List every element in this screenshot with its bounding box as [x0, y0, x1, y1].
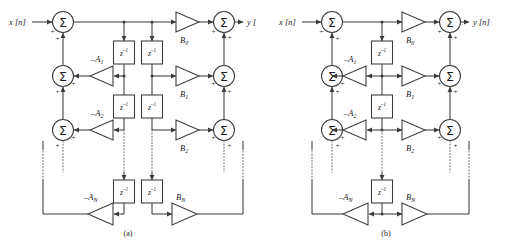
amp-a-AN-label: –AN [83, 192, 98, 203]
amp-b-AN-label: –AN [338, 192, 353, 203]
sum-node-a-right-3-symbol: Σ [220, 123, 228, 138]
sign-plus: + [320, 28, 324, 36]
amp-a-A1 [90, 66, 113, 86]
sign-plus: + [212, 28, 216, 36]
sign-plus: + [72, 134, 76, 142]
amp-b-B0-label: B0 [406, 35, 414, 46]
sign-plus: + [336, 35, 340, 43]
sign-plus: + [56, 142, 60, 150]
amp-b-AN [343, 203, 368, 225]
sum-node-a-right-1-symbol: Σ [220, 15, 228, 30]
amp-b-B0 [402, 12, 425, 32]
sign-plus: + [454, 142, 458, 150]
caption-a: (a) [124, 229, 133, 238]
sign-plus: + [212, 80, 216, 88]
sum-node-a-left-3-symbol: Σ [59, 123, 67, 138]
amp-a-A2 [90, 120, 113, 140]
amp-a-BN [172, 203, 197, 225]
amp-a-BN-label: BN [176, 192, 186, 203]
sign-plus: + [72, 80, 76, 88]
sum-node-b-right-1-symbol: Σ [446, 15, 454, 30]
sum-node-a-left-1-symbol: Σ [59, 15, 67, 30]
amp-a-A1-label: –A1 [90, 54, 103, 65]
sum-node-b-right-2-symbol: Σ [446, 69, 454, 84]
sign-plus: + [341, 134, 345, 142]
amp-a-A2-label: –A2 [90, 108, 103, 119]
sum-node-a-right-2-symbol: Σ [220, 69, 228, 84]
sum-node-a-left-2-symbol: Σ [59, 69, 67, 84]
amp-b-B1 [402, 66, 425, 86]
sign-plus: + [438, 80, 442, 88]
sum-node-b-right-3-symbol: Σ [446, 123, 454, 138]
sign-plus: + [336, 142, 340, 150]
output-label-b: y [n] [472, 17, 490, 27]
amp-a-B0 [176, 12, 199, 32]
panel-b-diagram: Σ + + B0 Σ + + x [n] y [n] z–1 Σ + + –A1… [256, 0, 512, 252]
sum-node-b-left-1-symbol: Σ [328, 15, 336, 30]
input-label-b: x [n] [278, 17, 296, 27]
output-label-a: y [n] [246, 17, 256, 27]
input-label-a: x [n] [8, 17, 26, 27]
sign-plus: + [51, 28, 55, 36]
caption-b: (b) [381, 229, 391, 238]
sign-plus: + [56, 35, 60, 43]
amp-a-B1 [176, 66, 199, 86]
sign-plus: + [438, 28, 442, 36]
amp-b-A2 [343, 120, 366, 140]
figure-canvas: Σ + + B0 Σ + + x [n] y [n] z–1 z–1 Σ + +… [0, 0, 512, 252]
amp-a-B2 [176, 120, 199, 140]
sign-plus: + [228, 34, 232, 42]
sign-plus: + [228, 142, 232, 150]
sign-plus: + [56, 88, 60, 96]
amp-b-A1-label: –A1 [343, 54, 356, 65]
sign-plus: + [336, 88, 340, 96]
amp-b-A1 [343, 66, 366, 86]
amp-b-A2-label: –A2 [343, 108, 356, 119]
sign-plus: + [454, 34, 458, 42]
sign-plus: + [212, 134, 216, 142]
amp-b-BN-label: BN [406, 192, 416, 203]
amp-a-B2-label: B2 [180, 143, 188, 154]
sign-plus: + [341, 80, 345, 88]
amp-a-AN [88, 203, 113, 225]
amp-b-B2-label: B2 [406, 143, 414, 154]
amp-b-B2 [402, 120, 425, 140]
sign-plus: + [454, 88, 458, 96]
sign-plus: + [228, 88, 232, 96]
amp-a-B0-label: B0 [180, 35, 188, 46]
panel-a-diagram: Σ + + B0 Σ + + x [n] y [n] z–1 z–1 Σ + +… [0, 0, 256, 252]
amp-a-B1-label: B1 [180, 89, 188, 100]
amp-b-BN [402, 203, 427, 225]
sign-plus: + [438, 134, 442, 142]
amp-b-B1-label: B1 [406, 89, 414, 100]
